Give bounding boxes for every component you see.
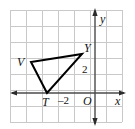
vertex-label-v: V [17, 56, 24, 68]
y-axis [92, 8, 97, 126]
tick-label-x-minus-2: –2 [58, 95, 69, 106]
tick-label-y-2: 2 [82, 64, 88, 75]
vertex-label-t: T [42, 96, 49, 108]
vertex-label-y: Y [84, 42, 91, 54]
y-axis-up-arrow [92, 8, 97, 16]
y-axis-label: y [100, 13, 105, 25]
x-axis-left-arrow [10, 90, 17, 95]
origin-label: O [83, 95, 92, 107]
coordinate-plane-figure: V T Y 2 –2 O x y [0, 0, 135, 129]
x-axis-label: x [115, 95, 120, 107]
